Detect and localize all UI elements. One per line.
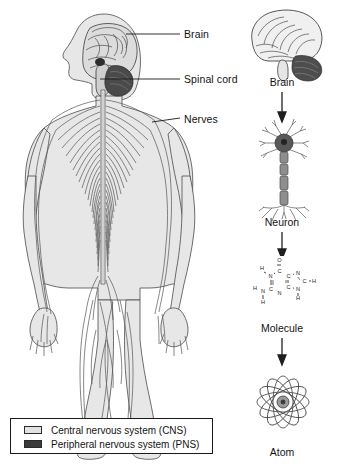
flow-arrow-3 (278, 338, 286, 365)
legend-item-pns: Peripheral nervous system (PNS) (24, 437, 212, 451)
level-label-brain: Brain (222, 76, 338, 88)
svg-text:O: O (277, 257, 282, 263)
svg-text:N: N (296, 286, 300, 292)
svg-text:N: N (277, 290, 281, 296)
level-label-neuron: Neuron (222, 216, 338, 228)
svg-text:C: C (286, 284, 290, 290)
svg-text:C: C (286, 273, 290, 279)
nervous-system-figure: O N H C C N C H C N H N C N H (0, 0, 338, 466)
svg-text:N: N (296, 270, 300, 276)
legend-label-pns: Peripheral nervous system (PNS) (51, 439, 199, 450)
level-label-molecule: Molecule (222, 322, 338, 334)
brain-lateral-icon (252, 10, 322, 81)
body-label-brain: Brain (184, 28, 209, 40)
flow-arrow-1 (278, 92, 286, 122)
figure-artwork: O N H C C N C H C N H N C N H (0, 0, 338, 466)
svg-text:H: H (261, 299, 265, 305)
svg-text:C: C (302, 278, 306, 284)
level-label-atom: Atom (222, 446, 338, 458)
svg-text:H: H (253, 285, 257, 291)
legend-label-cns: Central nervous system (CNS) (51, 425, 187, 436)
legend: Central nervous system (CNS) Peripheral … (10, 418, 213, 454)
legend-swatch-cns (24, 426, 42, 434)
legend-swatch-pns (24, 440, 42, 448)
svg-text:H: H (296, 295, 300, 301)
molecule-atom-labels: O N H C C N C H C N H N C N H (253, 256, 316, 305)
svg-text:N: N (268, 273, 272, 279)
svg-text:C: C (277, 268, 281, 274)
svg-text:N: N (261, 288, 265, 294)
svg-text:H: H (312, 278, 316, 284)
spinal-cord (101, 90, 105, 284)
flow-arrow-2 (278, 232, 286, 259)
legend-item-cns: Central nervous system (CNS) (24, 423, 212, 437)
neuron-icon (259, 119, 309, 221)
svg-text:C: C (269, 286, 273, 292)
svg-text:H: H (260, 265, 264, 271)
atom-orbit-icon (255, 374, 310, 429)
body-label-nerves: Nerves (184, 113, 218, 125)
